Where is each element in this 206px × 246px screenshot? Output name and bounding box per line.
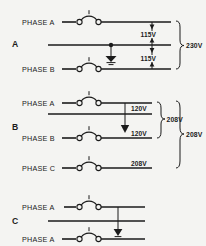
- switch-arc-a1: [81, 16, 97, 20]
- terminal-right-a2: [96, 100, 101, 105]
- switch-arc-b1: [81, 63, 97, 67]
- voltage-label-120v-lower: 120V: [131, 130, 147, 137]
- switch-arc-a3: [81, 201, 97, 205]
- phase-label-b1: PHASE B: [22, 65, 55, 74]
- wiring-diagram: A PHASE A PHASE B: [0, 0, 206, 246]
- phase-label-a4: PHASE A: [22, 235, 55, 244]
- terminal-right-a1: [96, 19, 101, 24]
- voltage-label-lower-115v: 115V: [141, 55, 157, 62]
- section-b: B PHASE A PHASE B PHASE C: [12, 91, 203, 172]
- switch-arc-c2: [81, 162, 97, 166]
- section-label-b: B: [12, 122, 18, 132]
- phase-label-c2: PHASE C: [22, 164, 55, 173]
- section-label-c: C: [12, 216, 18, 226]
- switch-arc-b2: [81, 132, 97, 136]
- brace-label-208v-outer: 208V: [186, 131, 203, 138]
- section-label-a: A: [12, 39, 18, 49]
- voltage-label-upper-115v: 115V: [141, 31, 157, 38]
- brace-label-230v: 230V: [186, 42, 203, 49]
- section-c: C PHASE A PHASE A: [12, 195, 145, 243]
- terminal-right-c2: [96, 165, 101, 170]
- phase-label-a3: PHASE A: [22, 203, 55, 212]
- section-a: A PHASE A PHASE B: [12, 10, 203, 73]
- switch-arc-a4: [81, 233, 97, 237]
- terminal-right-b1: [96, 66, 101, 71]
- voltage-label-208v-phase-c: 208V: [131, 160, 147, 167]
- brace-208v-inner: [157, 102, 165, 138]
- voltage-label-120v-upper: 120V: [131, 105, 147, 112]
- brace-208v-outer: [176, 101, 184, 168]
- terminal-right-b2: [96, 135, 101, 140]
- phase-label-a2: PHASE A: [22, 99, 55, 108]
- phase-label-b2: PHASE B: [22, 134, 55, 143]
- phase-label-a1: PHASE A: [22, 18, 55, 27]
- brace-230v: [176, 21, 184, 69]
- ground-symbol-a: [106, 45, 117, 65]
- diagram-canvas: A PHASE A PHASE B: [0, 0, 206, 246]
- terminal-right-a3: [96, 204, 101, 209]
- switch-arc-a2: [81, 97, 97, 101]
- brace-label-208v-inner: 208V: [167, 116, 184, 123]
- terminal-right-a4: [96, 236, 101, 241]
- ground-arrow-b: [121, 103, 129, 133]
